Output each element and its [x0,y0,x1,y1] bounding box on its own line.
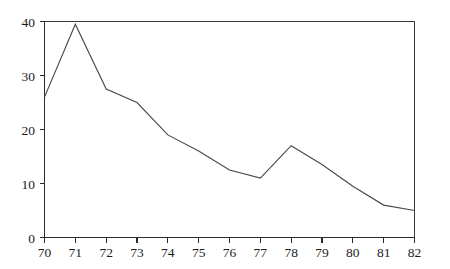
x-tick-label: 79 [315,245,329,260]
y-tick-label: 20 [22,123,36,138]
x-tick-label: 71 [69,245,83,260]
chart-background [0,0,450,269]
x-tick-label: 72 [99,245,113,260]
chart-container: 0 10 20 30 40 70 71 72 73 [0,0,450,269]
x-tick-label: 74 [161,245,175,260]
y-tick-label: 40 [22,15,36,30]
y-tick-label: 10 [22,177,36,192]
x-tick-label: 70 [38,245,52,260]
y-tick-label: 0 [28,231,35,246]
x-tick-label: 78 [284,245,298,260]
x-tick-label: 77 [254,245,268,260]
x-tick-label: 75 [192,245,206,260]
x-tick-label: 80 [346,245,360,260]
x-tick-label: 76 [223,245,237,260]
y-tick-label: 30 [22,69,36,84]
x-tick-label: 82 [408,245,422,260]
x-tick-label: 81 [377,245,391,260]
x-tick-label: 73 [130,245,144,260]
line-chart: 0 10 20 30 40 70 71 72 73 [0,0,450,269]
